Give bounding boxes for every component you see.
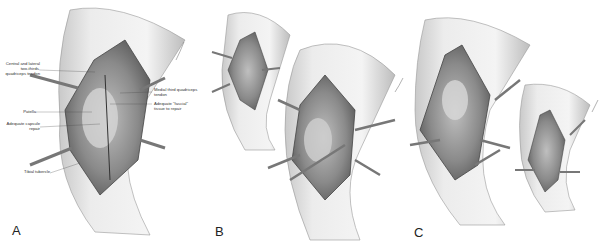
panel-a-knee [30, 8, 185, 235]
panel-letter-c: C [414, 225, 423, 240]
panel-b-knee-small [212, 13, 290, 151]
surgical-illustration-figure: Central and lateral two-thirds, quadrice… [0, 0, 612, 244]
label-medial-third-tendon: Medial third quadriceps tendon [154, 88, 198, 98]
label-patella: Patella [4, 110, 36, 115]
label-tibial-tubercle: Tibial tubercle [18, 170, 50, 175]
illustration-artwork [0, 0, 612, 244]
label-fascial-tissue: Adequate "fascial" tissue to repair [154, 102, 198, 112]
panel-letter-a: A [12, 223, 21, 238]
panel-letter-b: B [215, 224, 224, 239]
panel-c-knee-small [515, 84, 590, 212]
panel-c-knee-large [410, 18, 530, 225]
panel-b-knee-large [268, 44, 395, 240]
label-central-lateral-tendon: Central and lateral two-thirds, quadrice… [4, 62, 40, 76]
label-capsule-repair: Adequate capsule repair [4, 122, 40, 132]
